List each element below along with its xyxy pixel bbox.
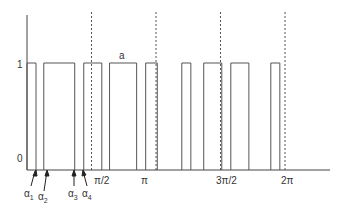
pulse-2 <box>44 63 75 170</box>
x-label-3pi-half: 3π/2 <box>216 175 237 186</box>
alpha1-label: α1 <box>24 188 34 201</box>
pulse-8 <box>231 63 249 170</box>
pulse-4 <box>110 63 137 170</box>
alpha2-label: α2 <box>38 191 48 204</box>
pulse-7 <box>204 63 222 170</box>
x-label-2pi: 2π <box>281 175 294 186</box>
pwm-waveform-diagram: 1 0 a π/2 π 3π/2 2π α1 α2 α3 α4 <box>0 0 343 208</box>
x-label-pi: π <box>141 175 148 186</box>
alpha2-arrowhead <box>45 170 49 176</box>
pulse-1 <box>27 63 36 170</box>
alpha4-label: α4 <box>82 188 92 201</box>
alpha1-arrowhead <box>33 170 37 176</box>
x-label-pi-half: π/2 <box>94 175 110 186</box>
y-label-high: 1 <box>17 59 23 70</box>
alpha4-arrowhead <box>82 170 86 176</box>
alpha3-arrowhead <box>72 170 76 176</box>
y-label-low: 0 <box>17 153 23 164</box>
alpha3-label: α3 <box>68 188 78 201</box>
pulse-label-a: a <box>119 50 125 61</box>
pulse-6 <box>182 63 191 170</box>
pulse-3 <box>84 63 102 170</box>
pulse-9 <box>271 63 280 170</box>
